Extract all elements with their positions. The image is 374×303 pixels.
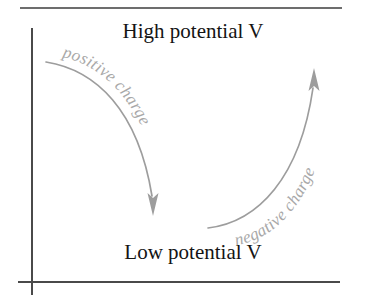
diagram-canvas: High potential V Low potential V positiv… [0,0,374,303]
high-potential-label: High potential V [123,19,264,43]
positive-charge-curve [46,62,152,196]
negative-charge-label: negative charge [233,164,319,249]
potential-charge-flow-diagram: High potential V Low potential V positiv… [0,0,374,303]
positive-charge-arrowhead [148,193,159,216]
negative-charge-arrowhead [309,68,320,91]
positive-charge-label: positive charge [60,42,155,129]
positive-charge-label-textpath: positive charge [60,42,155,129]
negative-charge-label-textpath: negative charge [233,164,319,249]
